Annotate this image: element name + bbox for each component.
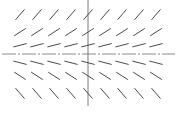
slope-segment (32, 29, 43, 36)
slope-segment (133, 61, 146, 64)
slope-segment (151, 72, 162, 79)
slope-segment (101, 88, 110, 98)
slope-segment (15, 29, 26, 36)
slope-segment (66, 72, 77, 79)
slope-field-chart (0, 0, 181, 114)
slope-segment (150, 44, 163, 47)
slope-segment (65, 61, 78, 64)
slope-segment (48, 61, 61, 64)
slope-segment (134, 29, 145, 36)
slope-segment (48, 44, 61, 47)
slope-segment (116, 61, 129, 64)
slope-segment (50, 10, 59, 20)
slope-segment (49, 72, 60, 79)
slope-segment (116, 44, 129, 47)
slope-segment (15, 72, 26, 79)
slope-segment (67, 10, 76, 20)
slope-segment (16, 88, 25, 98)
slope-segment (67, 88, 76, 98)
slope-segment (50, 88, 59, 98)
slope-segment (117, 72, 128, 79)
slope-segment (101, 10, 110, 20)
slope-segment (14, 44, 27, 47)
slope-segment (32, 72, 43, 79)
slope-segment (150, 61, 163, 64)
slope-segment (133, 44, 146, 47)
slope-segment (65, 44, 78, 47)
slope-segment (152, 10, 161, 20)
slope-segment (31, 44, 44, 47)
slope-segment (33, 10, 42, 20)
slope-segment (31, 61, 44, 64)
slope-segment (14, 61, 27, 64)
slope-segment (66, 29, 77, 36)
slope-segment (135, 88, 144, 98)
slope-segment (100, 72, 111, 79)
slope-segment (99, 44, 112, 47)
slope-segment (135, 10, 144, 20)
slope-segment (16, 10, 25, 20)
slope-segment (118, 10, 127, 20)
slope-segment (152, 88, 161, 98)
slope-segment (99, 61, 112, 64)
slope-segment (100, 29, 111, 36)
slope-segment (33, 88, 42, 98)
slope-segment (49, 29, 60, 36)
slope-segment (134, 72, 145, 79)
slope-segment (151, 29, 162, 36)
slope-segment (118, 88, 127, 98)
slope-segment (117, 29, 128, 36)
